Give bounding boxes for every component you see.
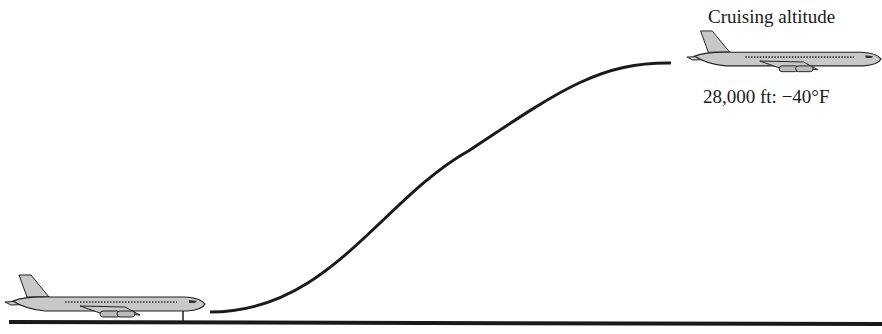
airplane-ground-icon: [5, 275, 205, 321]
runway-line: [9, 322, 882, 324]
cruising-altitude-label: Cruising altitude: [708, 6, 835, 28]
altitude-temperature-label: 28,000 ft: −40°F: [703, 86, 830, 108]
flight-path-curve: [210, 63, 671, 312]
diagram-canvas: [0, 0, 882, 334]
airplane-cruise-icon: [687, 31, 881, 72]
